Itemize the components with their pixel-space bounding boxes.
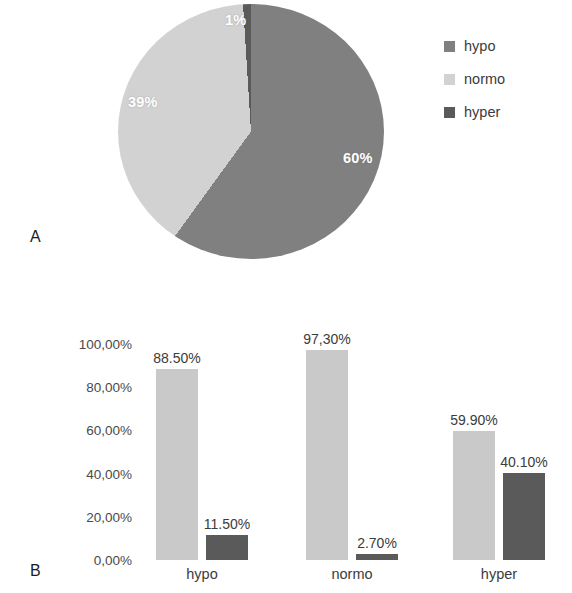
square-swatch-icon [444, 107, 455, 118]
pie-chart-slices [118, 4, 384, 259]
legend-item-label: hyper [464, 105, 500, 120]
y-axis-tick-labels: 0,00%20,00%40,00%60,00%80,00%100,00% [0, 300, 132, 593]
legend-item-label: normo [464, 72, 505, 87]
bar-value-label: 40.10% [500, 454, 547, 470]
legend-item-normo: normo [444, 63, 564, 96]
pie-chart: 1% 39% 60% [118, 4, 384, 259]
bar-value-label: 2.70% [357, 535, 397, 551]
y-axis-tick-label: 100,00% [6, 337, 132, 352]
pie-slice-label-normo: 39% [128, 94, 158, 110]
legend-item-hyper: hyper [444, 96, 564, 129]
panel-label-a: A [30, 228, 41, 246]
y-axis-tick-label: 0,00% [6, 553, 132, 568]
y-axis-tick-label: 60,00% [6, 423, 132, 438]
bar-hypo-hyper: 11.50% [206, 535, 248, 560]
bar-value-label: 11.50% [204, 516, 250, 532]
legend-item-label: hypo [464, 39, 495, 54]
x-axis-category-label: hyper [445, 566, 553, 582]
y-axis-tick-label: 80,00% [6, 380, 132, 395]
bar-normo-hyper: 2.70% [356, 554, 398, 560]
bar-group-normo: 97,30%2.70%normo [298, 344, 406, 560]
pie-slice-label-hypo: 60% [343, 150, 373, 166]
bar-group-hypo: 88.50%11.50%hypo [148, 344, 256, 560]
x-axis-category-label: normo [298, 566, 406, 582]
bar-value-label: 97,30% [303, 331, 350, 347]
bar-hypo-normo: 88.50% [156, 369, 198, 560]
bar-hyper-hyper: 40.10% [503, 473, 545, 560]
bar-value-label: 88.50% [153, 350, 200, 366]
y-axis-tick-label: 40,00% [6, 466, 132, 481]
pie-slice-label-hyper: 1% [225, 12, 246, 28]
panel-a-pie-chart: 1% 39% 60% hypo normo hyper A [0, 0, 572, 278]
legend-item-hypo: hypo [444, 30, 564, 63]
bar-chart-plot-area: 0,00%20,00%40,00%60,00%80,00%100,00% 88.… [0, 300, 572, 593]
square-swatch-icon [444, 41, 455, 52]
pie-chart-legend: hypo normo hyper [444, 30, 564, 129]
bar-hyper-normo: 59.90% [453, 431, 495, 560]
bar-group-hyper: 59.90%40.10%hyper [445, 344, 553, 560]
y-axis-tick-label: 20,00% [6, 509, 132, 524]
panel-b-bar-chart: 0,00%20,00%40,00%60,00%80,00%100,00% 88.… [0, 300, 572, 593]
square-swatch-icon [444, 74, 455, 85]
x-axis-category-label: hypo [148, 566, 256, 582]
panel-label-b: B [30, 562, 41, 580]
bar-value-label: 59.90% [450, 412, 497, 428]
bar-normo-normo: 97,30% [306, 350, 348, 560]
